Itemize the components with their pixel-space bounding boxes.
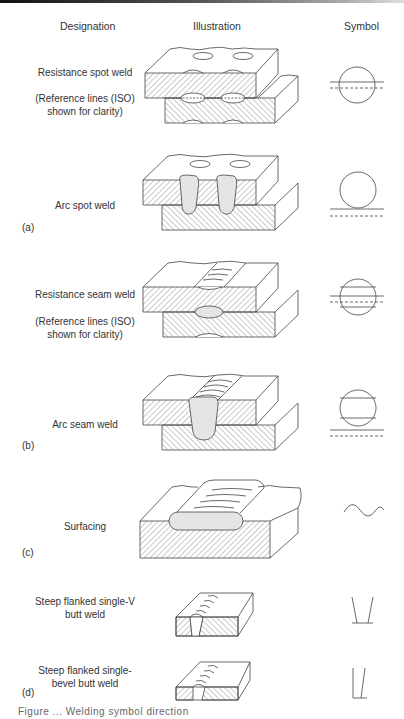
symbol-resistance-spot-weld	[330, 67, 384, 103]
symbol-surfacing	[344, 504, 384, 516]
symbol-steep-bevel-butt-weld	[353, 668, 367, 698]
symbol-steep-v-butt-weld	[352, 597, 373, 623]
diagram-canvas	[0, 0, 404, 719]
illustration-arc-seam-weld	[143, 374, 298, 450]
illustration-resistance-spot-weld	[145, 47, 298, 123]
symbol-arc-spot-weld	[330, 172, 384, 216]
symbol-arc-seam-weld	[330, 390, 384, 436]
illustration-arc-spot-weld	[143, 154, 298, 230]
symbol-resistance-seam-weld	[330, 279, 384, 315]
illustration-steep-v-butt-weld	[176, 593, 253, 636]
illustration-steep-bevel-butt-weld	[176, 662, 250, 700]
illustration-surfacing	[140, 480, 301, 558]
illustration-resistance-seam-weld	[143, 261, 298, 337]
